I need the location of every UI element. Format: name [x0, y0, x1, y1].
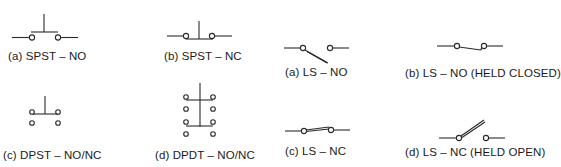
label-dpdt-no-nc: (d) DPDT – NO/NC: [155, 149, 255, 161]
dpst-no-nc-symbol: [30, 96, 61, 125]
dpdt-no-nc-symbol: [184, 83, 216, 136]
ls-nc-held-open-symbol: [439, 120, 505, 141]
label-ls-no-held-closed: (b) LS – NO (HELD CLOSED): [405, 67, 561, 79]
spst-nc-symbol: [167, 21, 232, 39]
label-ls-no: (a) LS – NO: [285, 66, 347, 78]
label-spst-no: (a) SPST – NO: [8, 50, 86, 62]
label-ls-nc-held-open: (d) LS – NC (HELD OPEN): [405, 146, 545, 158]
label-dpst-no-nc: (c) DPST – NO/NC: [3, 149, 102, 161]
ls-no-held-closed-symbol: [437, 43, 503, 50]
label-ls-nc: (c) LS – NC: [285, 145, 346, 157]
ls-nc-symbol: [285, 127, 350, 134]
ls-no-symbol: [284, 45, 349, 63]
spst-no-symbol: [12, 14, 78, 40]
label-spst-nc: (b) SPST – NC: [164, 50, 242, 62]
